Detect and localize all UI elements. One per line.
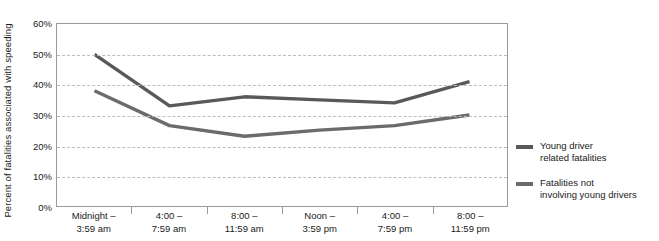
y-axis-title: Percent of fatalities associated with sp… — [0, 0, 14, 241]
gridline — [57, 55, 507, 56]
gridline — [57, 177, 507, 178]
y-axis-tick-label: 20% — [14, 140, 52, 151]
legend-label: Young driver related fatalities — [540, 140, 607, 164]
plot-area — [56, 23, 508, 207]
y-axis-tick-label: 60% — [14, 18, 52, 29]
series-line-1 — [95, 54, 470, 106]
gridline — [57, 116, 507, 117]
legend-swatch-icon — [516, 182, 533, 186]
x-axis-tick-label: 8:00 – 11:59 pm — [433, 210, 508, 235]
legend-entry-2: Fatalities not involving young drivers — [516, 177, 659, 201]
x-axis-tick-label: Midnight – 3:59 am — [56, 210, 131, 235]
gridline — [57, 147, 507, 148]
legend-swatch-icon — [516, 145, 533, 149]
y-axis-tick-label: 30% — [14, 110, 52, 121]
y-axis-tick-labels: 60%50%40%30%20%10%0% — [14, 0, 52, 241]
x-axis-tick-label: 4:00 – 7:59 am — [131, 210, 206, 235]
y-axis-tick-label: 0% — [14, 202, 52, 213]
x-axis-tick-label: 4:00 – 7:59 pm — [357, 210, 432, 235]
chart-legend: Young driver related fatalitiesFatalitie… — [516, 140, 659, 214]
x-axis-tick-label: 8:00 – 11:59 am — [207, 210, 282, 235]
y-axis-tick-label: 40% — [14, 79, 52, 90]
x-axis-tick-label: Noon – 3:59 pm — [282, 210, 357, 235]
legend-entry-1: Young driver related fatalities — [516, 140, 659, 164]
gridline — [57, 85, 507, 86]
plot-lines — [57, 24, 507, 206]
speeding-fatalities-line-chart: Percent of fatalities associated with sp… — [0, 0, 659, 241]
y-axis-tick-label: 50% — [14, 48, 52, 59]
legend-label: Fatalities not involving young drivers — [540, 177, 637, 201]
y-axis-tick-label: 10% — [14, 171, 52, 182]
